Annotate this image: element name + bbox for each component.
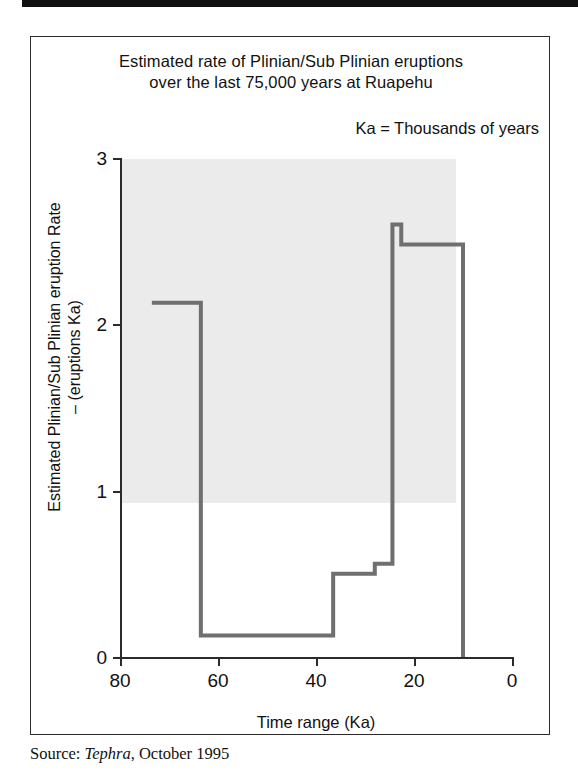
page-top-rule: [22, 0, 578, 7]
series-polyline: [152, 225, 463, 657]
source-prefix: Source:: [30, 744, 85, 763]
source-publication: Tephra: [85, 744, 131, 763]
chart-frame: Estimated rate of Plinian/Sub Plinian er…: [30, 36, 550, 735]
eruption-rate-step-series: [31, 37, 551, 736]
figure-page: Estimated rate of Plinian/Sub Plinian er…: [0, 0, 578, 773]
source-suffix: , October 1995: [131, 744, 230, 763]
source-note: Source: Tephra, October 1995: [30, 744, 550, 764]
